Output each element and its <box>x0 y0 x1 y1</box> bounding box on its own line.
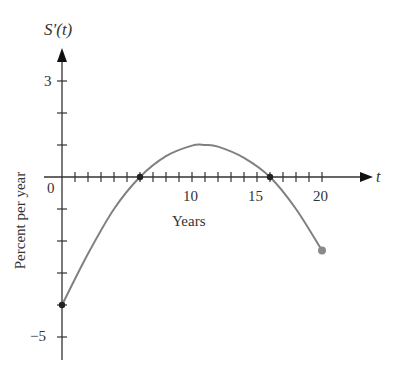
x-tick-label-15: 15 <box>248 188 263 205</box>
chart-canvas <box>0 0 397 384</box>
x-axis-arrow-icon <box>360 172 373 182</box>
x-tick-label-10: 10 <box>183 188 198 205</box>
y-tick-label-neg5: −5 <box>30 328 46 345</box>
x-tick-label-0: 0 <box>47 180 55 197</box>
x-axis-variable: t <box>376 168 380 186</box>
x-axis-title: Years <box>172 213 205 230</box>
x-tick-label-20: 20 <box>313 188 328 205</box>
y-axis-label: Percent per year <box>12 161 29 281</box>
y-axis-arrow-icon <box>57 48 67 62</box>
y-axis-title: S′(t) <box>44 20 72 40</box>
y-tick-label-3: 3 <box>44 73 52 90</box>
